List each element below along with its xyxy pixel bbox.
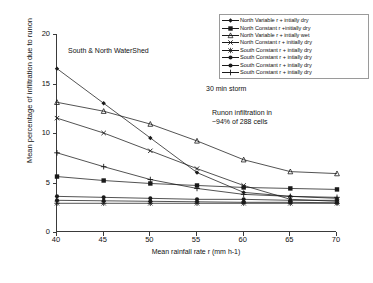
- x-axis-tick-label: 60: [230, 236, 256, 244]
- legend-marker-glyph: [225, 32, 236, 39]
- legend-item-label: South Constant r + intially dry: [240, 62, 312, 69]
- legend-marker-shape: [228, 63, 232, 67]
- legend-item-label: South Constant r + intially dry: [240, 54, 312, 61]
- chart-figure: 05101520 Mean percentage of infiltration…: [0, 0, 373, 283]
- legend-marker-shape: [228, 56, 232, 60]
- legend-marker-cross-icon: [222, 39, 239, 46]
- legend-marker-square-icon: [222, 25, 239, 32]
- legend-marker-shape: [228, 41, 232, 45]
- legend-marker-plus-icon: [222, 69, 239, 76]
- legend-marker-diamond-icon: [222, 17, 239, 24]
- legend-marker-circle2-icon: [222, 62, 239, 69]
- x-axis-tick-mark: [56, 232, 57, 236]
- legend-marker-shape: [228, 70, 234, 76]
- x-axis-tick-label: 40: [43, 236, 69, 244]
- legend-item: South Constant r + intially dry: [222, 54, 365, 61]
- legend-marker-shape: [228, 18, 232, 22]
- legend-item-label: North Constant r +initially dry: [240, 25, 310, 32]
- legend-marker-glyph: [225, 39, 236, 46]
- x-axis-tick-label: 55: [183, 236, 209, 244]
- x-axis-tick-label: 70: [323, 236, 349, 244]
- x-axis-tick-label: 50: [136, 236, 162, 244]
- legend-item: North Constant r + initially dry: [222, 39, 365, 46]
- annotation-runon-line1: Runon infiltration in: [212, 108, 272, 117]
- legend-marker-glyph: [225, 62, 236, 69]
- x-axis-tick-mark: [103, 232, 104, 236]
- x-axis-tick-label: 65: [276, 236, 302, 244]
- legend: North Variable r + intially dryNorth Con…: [219, 14, 369, 79]
- legend-item: North Variable r + intially wet: [222, 32, 365, 39]
- legend-marker-glyph: [225, 17, 236, 24]
- legend-item-label: North Variable r + intially dry: [240, 17, 308, 24]
- legend-marker-star-icon: [222, 47, 239, 54]
- legend-item-label: South Constant r + intially dry: [240, 47, 312, 54]
- legend-marker-glyph: [225, 69, 236, 76]
- x-axis-tick-mark: [289, 232, 290, 236]
- legend-marker-circle-icon: [222, 54, 239, 61]
- legend-marker-shape: [228, 33, 233, 38]
- legend-marker-shape: [228, 26, 232, 30]
- x-axis-tick-mark: [149, 232, 150, 236]
- legend-item: South Constant r + intially dry: [222, 47, 365, 54]
- x-axis-tick-mark: [196, 232, 197, 236]
- legend-marker-glyph: [225, 47, 236, 54]
- legend-item: South Constant r + intially dry: [222, 61, 365, 68]
- x-axis-tick-label: 45: [90, 236, 116, 244]
- annotation-storm-duration: 30 min storm: [206, 85, 246, 92]
- legend-marker-glyph: [225, 54, 236, 61]
- legend-item: North Constant r +initially dry: [222, 24, 365, 31]
- legend-item: South Constant r + intially dry: [222, 69, 365, 76]
- annotation-runon-line2: ~94% of 288 cells: [212, 117, 272, 126]
- legend-item-label: North Variable r + intially wet: [240, 32, 309, 39]
- legend-item-label: North Constant r + initially dry: [240, 39, 312, 46]
- legend-marker-glyph: [225, 25, 236, 32]
- legend-item-label: South Constant r + intially dry: [240, 69, 312, 76]
- legend-marker-triangle-icon: [222, 32, 239, 39]
- x-axis-tick-mark: [336, 232, 337, 236]
- legend-marker-shape: [228, 48, 233, 53]
- x-axis-tick-mark: [243, 232, 244, 236]
- annotation-runon: Runon infiltration in ~94% of 288 cells: [212, 108, 272, 126]
- legend-item: North Variable r + intially dry: [222, 17, 365, 24]
- annotation-watershed: South & North WaterShed: [68, 47, 149, 54]
